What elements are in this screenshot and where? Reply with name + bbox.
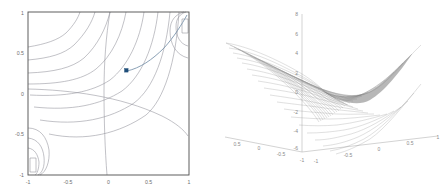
figure-canvas: -1 -0.5 0 0.5 1 1 0.5 0 -0.5 -1 — [0, 0, 448, 195]
trajectory-start-marker — [125, 69, 129, 73]
contour-lines — [28, 12, 188, 175]
contour-line — [28, 12, 110, 73]
y-tick-label: 0 — [21, 91, 24, 97]
contour-line — [28, 148, 39, 175]
contour-y-ticks: 1 0.5 0 -0.5 -1 — [15, 10, 24, 178]
z-tick-label: 0 — [295, 89, 298, 95]
x-tick-label: -1 — [314, 158, 319, 164]
contour-line — [30, 158, 36, 172]
contour-axes-frame — [28, 12, 189, 175]
z-tick-label: -2 — [294, 109, 299, 115]
z-tick-label: 6 — [295, 31, 298, 37]
y-tick-label: 0.5 — [234, 141, 241, 147]
contour-x-ticks: -1 -0.5 0 0.5 1 — [26, 179, 191, 185]
x-tick-label: -0.5 — [64, 179, 73, 185]
z-tick-label: 2 — [295, 70, 298, 76]
contour-plot: -1 -0.5 0 0.5 1 1 0.5 0 -0.5 -1 — [0, 0, 224, 195]
contour-line — [104, 12, 110, 175]
contour-line — [30, 12, 144, 95]
contour-line — [182, 19, 188, 33]
x-tick-label: 0 — [107, 179, 110, 185]
y-tick-label: -0.5 — [15, 131, 24, 137]
y-tick-label: -1 — [19, 172, 24, 178]
z-tick-label: 4 — [295, 50, 298, 56]
x-tick-label: 1 — [188, 179, 191, 185]
z-tick-label: -4 — [294, 128, 299, 134]
z-tick-label: -6 — [294, 145, 299, 151]
z-tick-label: 8 — [295, 11, 298, 17]
x-tick-label: 0 — [378, 146, 381, 152]
contour-line — [28, 12, 80, 47]
surface-axes — [225, 14, 438, 152]
optimization-trajectory — [125, 15, 188, 72]
x-tick-label: -1 — [26, 179, 31, 185]
x-tick-label: 1 — [437, 134, 440, 140]
contour-line — [40, 12, 170, 122]
contour-line — [28, 89, 188, 136]
y-tick-label: 1 — [21, 10, 24, 16]
y-tick-label: -1 — [300, 157, 305, 163]
surface-fold-shading — [322, 54, 412, 103]
x-tick-label: 0.5 — [145, 179, 152, 185]
surface-x-ticks: -1 -0.5 0 0.5 1 — [314, 134, 440, 164]
contour-line — [28, 12, 126, 84]
y-tick-label: 0 — [258, 145, 261, 151]
surface-plot: 8 6 4 2 0 -2 -4 -6 0.5 0 -0.5 -1 -1 -0.5… — [224, 0, 448, 195]
surface-mesh — [226, 43, 421, 154]
y-tick-label: 0.5 — [17, 50, 24, 56]
x-axis-line — [302, 136, 438, 152]
y-tick-label: -0.5 — [277, 151, 286, 157]
x-tick-label: 0.5 — [407, 140, 414, 146]
x-tick-label: -0.5 — [344, 152, 353, 158]
contour-line — [34, 12, 158, 108]
